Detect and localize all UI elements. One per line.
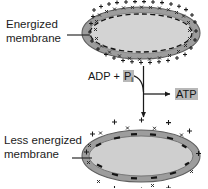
less-energized-membrane-cell <box>82 118 201 189</box>
label-less-energized-line1: Less energized <box>4 134 82 148</box>
phosphate-highlight: Pi <box>123 70 134 82</box>
reaction-product-label: ATP <box>175 88 198 100</box>
label-energized-line2: membrane <box>6 32 61 46</box>
top-cell-interior <box>89 13 194 54</box>
membrane-energization-figure: Energized membrane Less energized membra… <box>0 0 208 188</box>
reaction-substrate-label: ADP + Pi <box>88 70 134 84</box>
energized-membrane-cell <box>82 0 200 64</box>
label-energized-line1: Energized <box>6 18 61 32</box>
label-energized-membrane: Energized membrane <box>6 18 61 45</box>
label-less-energized-membrane: Less energized membrane <box>4 134 82 161</box>
adp-text: ADP + <box>88 70 123 82</box>
label-less-energized-line2: membrane <box>4 148 82 162</box>
atp-text: ATP <box>176 88 197 100</box>
reaction-arrows <box>128 66 170 117</box>
phosphate-subscript: i <box>131 75 133 84</box>
atp-highlight: ATP <box>175 88 198 100</box>
bottom-cell-interior <box>89 136 193 176</box>
